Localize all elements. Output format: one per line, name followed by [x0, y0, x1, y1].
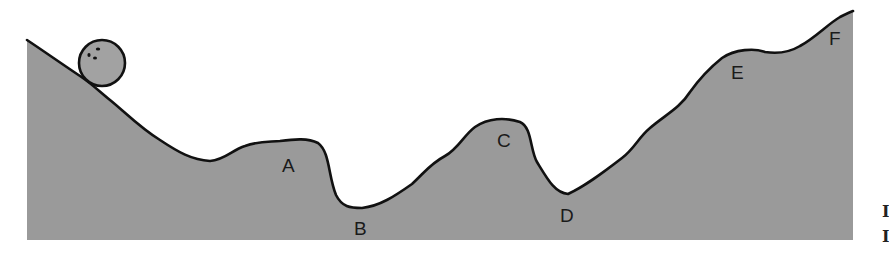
- ball: [79, 40, 125, 86]
- point-label-b: B: [354, 219, 367, 238]
- cropped-text-fragment: I: [882, 204, 889, 220]
- ball-hole: [87, 53, 90, 57]
- point-label-e: E: [731, 63, 744, 82]
- point-label-a: A: [282, 156, 295, 175]
- point-label-d: D: [560, 206, 574, 225]
- ball-hole: [93, 57, 97, 60]
- point-label-c: C: [497, 131, 511, 150]
- terrain-fill: [27, 11, 853, 240]
- point-label-f: F: [829, 29, 841, 48]
- ball-hole: [96, 48, 100, 51]
- cropped-text-fragment: I: [882, 229, 889, 245]
